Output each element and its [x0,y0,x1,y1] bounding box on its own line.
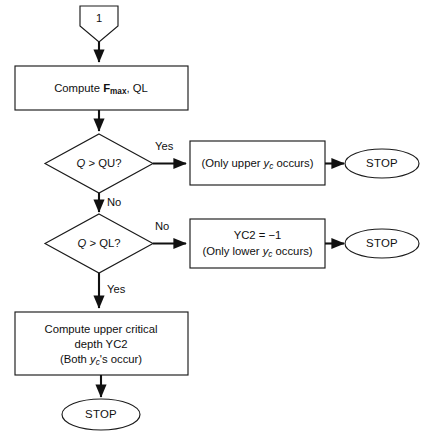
box-only-lower-node: YC2 = −1 (Only lower yc occurs) [190,219,325,268]
process-compute-yc2-line1: Compute upper critical [44,323,157,335]
decision-ql-op: > [86,237,99,249]
branch-label-qu-yes: Yes [155,140,174,152]
only-upper-post: occurs) [273,157,313,169]
compute-f-subscript: max [110,87,127,96]
box-only-lower-line1: YC2 = −1 [234,229,282,241]
both-yc-post: 's occur) [100,353,143,365]
flowchart-canvas: 1 Compute Fmax, QL Q > QU? Yes No [0,0,428,447]
only-lower-pre: (Only lower [202,245,262,257]
decision-qu-node: Q > QU? [45,134,153,193]
process-compute-yc2-node: Compute upper critical depth YC2 (Both y… [15,312,188,375]
decision-ql-rhs: QL? [99,237,120,249]
terminal-stop-final-node: STOP [62,399,140,430]
box-only-upper-node: (Only upper yc occurs) [190,141,325,185]
process-compute-yc2-line3: (Both yc's occur) [60,353,142,367]
box-only-lower-line2: (Only lower yc occurs) [202,245,312,259]
terminal-stop-upper-node: STOP [345,149,419,178]
terminal-stop-lower-label: STOP [366,237,398,249]
branch-label-qu-no: No [107,196,121,208]
compute-f-suffix: , QL [126,82,147,94]
branch-label-ql-no: No [155,220,169,232]
connector-in-node: 1 [80,6,118,42]
process-compute-yc2-line2: depth YC2 [74,338,127,350]
only-upper-pre: (Only upper [201,157,263,169]
both-yc-pre: (Both [60,353,90,365]
decision-ql-label: Q > QL? [77,237,120,249]
decision-ql-var: Q [77,237,86,249]
only-lower-post: occurs) [272,245,312,257]
process-compute-f-node: Compute Fmax, QL [15,66,188,110]
decision-qu-op: > [85,157,98,169]
decision-qu-var: Q [77,157,86,169]
decision-ql-node: Q > QL? [45,214,153,273]
decision-qu-label: Q > QU? [77,157,122,169]
terminal-stop-upper-label: STOP [366,157,398,169]
terminal-stop-lower-node: STOP [345,229,419,258]
connector-in-label: 1 [96,12,102,24]
flowchart-svg: 1 Compute Fmax, QL Q > QU? Yes No [0,0,428,447]
branch-label-ql-yes: Yes [107,283,126,295]
process-compute-f-label: Compute Fmax, QL [54,82,148,96]
terminal-stop-final-label: STOP [85,408,117,420]
box-only-lower-shape [190,219,325,268]
compute-f-prefix: Compute [54,82,103,94]
box-only-upper-label: (Only upper yc occurs) [201,157,313,171]
decision-qu-rhs: QU? [98,157,121,169]
